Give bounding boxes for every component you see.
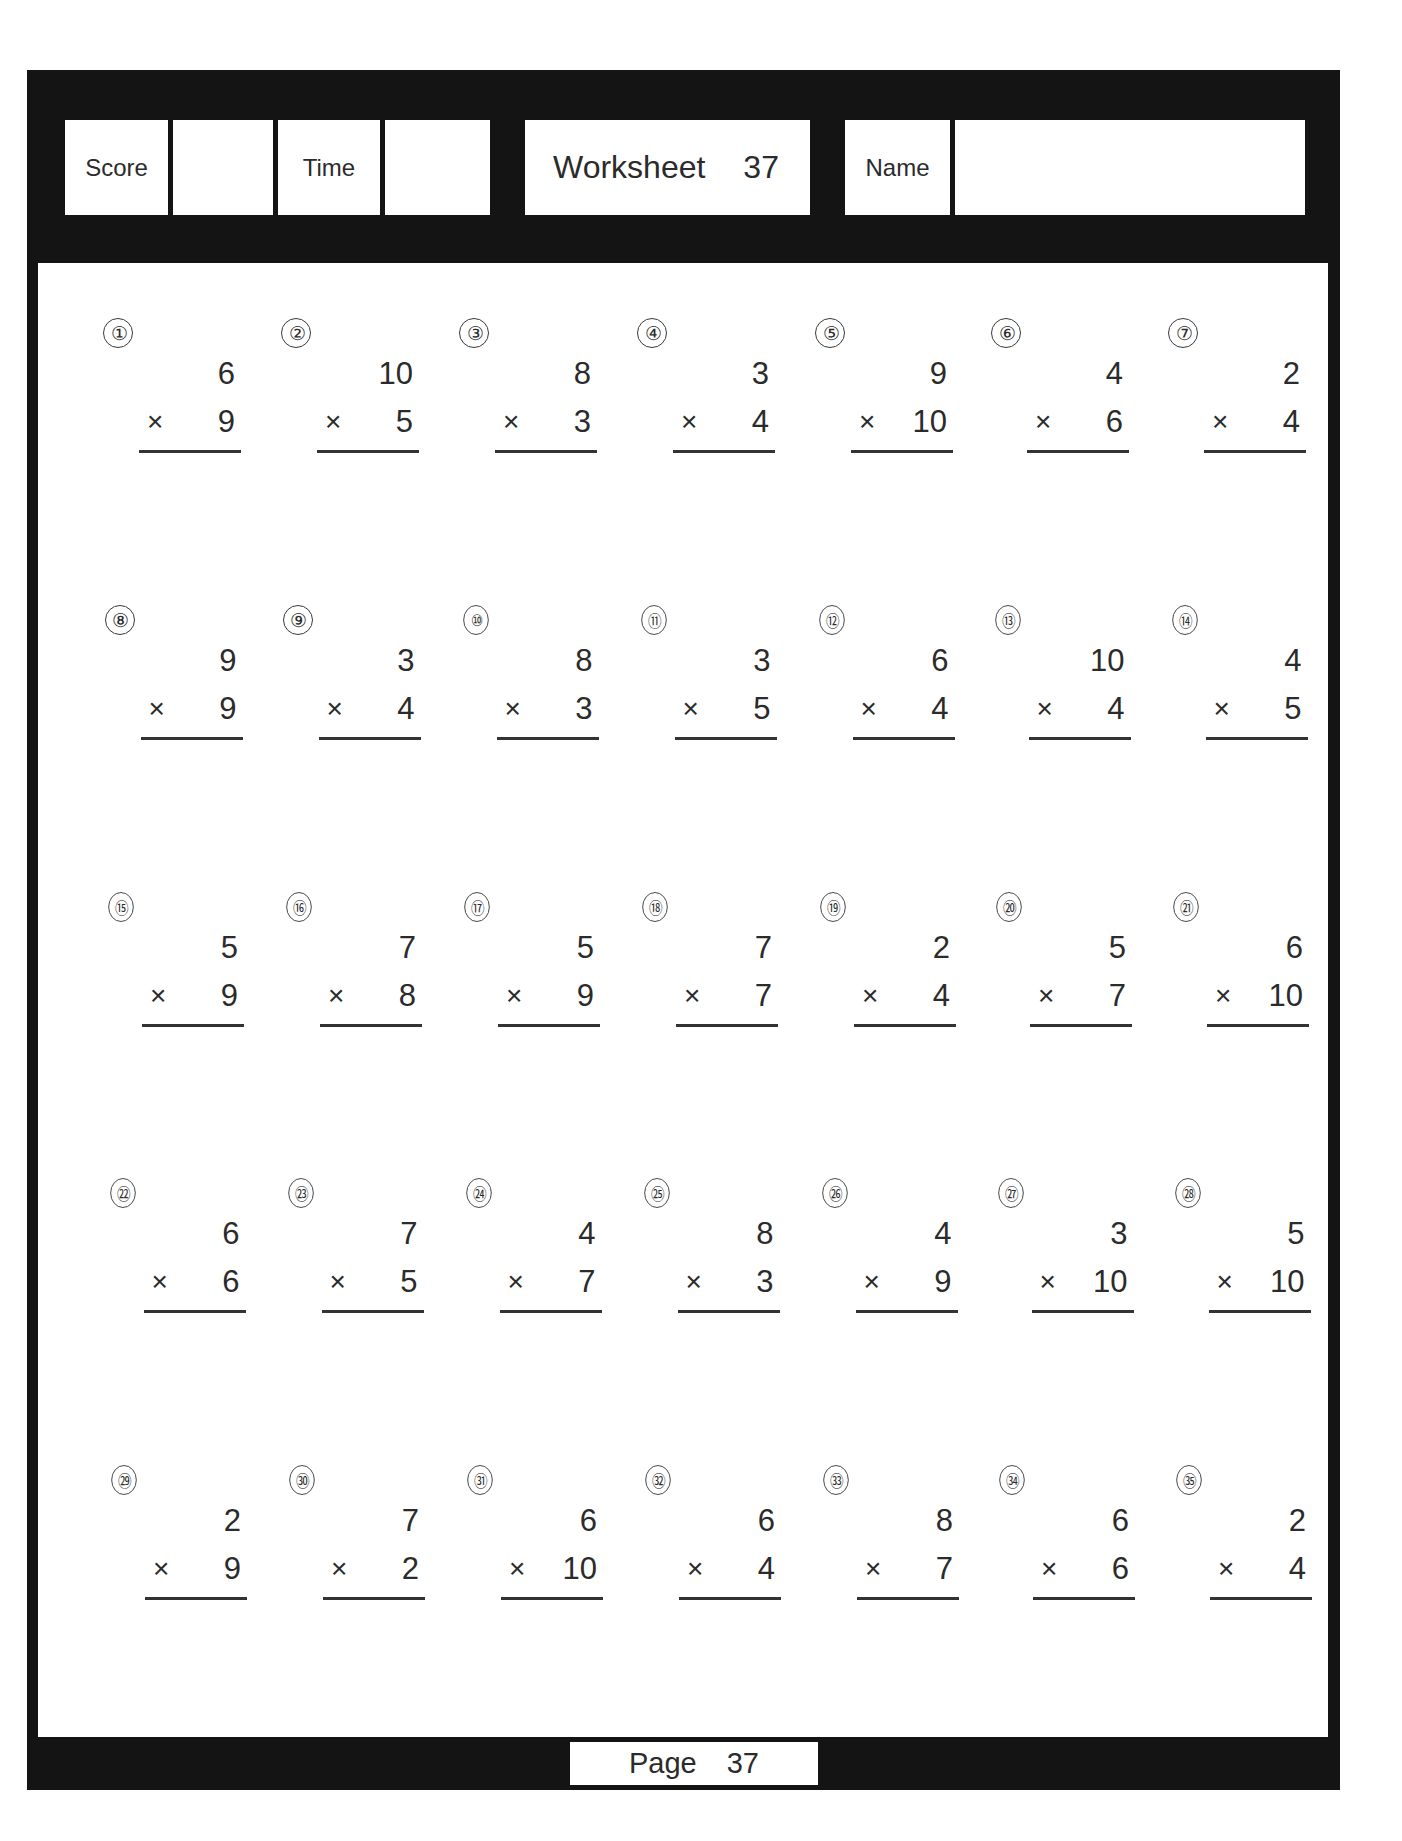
- score-field[interactable]: [173, 120, 273, 215]
- multiplier: 4: [931, 691, 948, 727]
- problem-item: ㉓7×5: [286, 1178, 446, 1328]
- problem-number-badge: ⑮: [108, 892, 134, 922]
- problem-number-badge: ⑰: [464, 892, 490, 922]
- multiplier: 4: [758, 1551, 775, 1587]
- problem-item: ①6×9: [103, 318, 263, 468]
- answer-line[interactable]: [856, 1310, 958, 1313]
- multiplicand: 2: [933, 930, 950, 966]
- answer-line[interactable]: [498, 1024, 600, 1027]
- multiplicand: 5: [221, 930, 238, 966]
- multiplicand: 3: [752, 356, 769, 392]
- problem-item: ⑫6×4: [817, 605, 977, 755]
- problem-number-badge: ②: [281, 318, 311, 348]
- multiplicand: 4: [1284, 643, 1301, 679]
- answer-line[interactable]: [857, 1597, 959, 1600]
- answer-line[interactable]: [673, 450, 775, 453]
- problem-number-badge: ⑫: [819, 605, 845, 635]
- answer-line[interactable]: [675, 737, 777, 740]
- problem-number-badge: ㉝: [823, 1465, 849, 1495]
- answer-line[interactable]: [323, 1597, 425, 1600]
- multiply-sign: ×: [505, 693, 521, 725]
- answer-line[interactable]: [1030, 1024, 1132, 1027]
- multiplicand: 7: [400, 1216, 417, 1252]
- answer-line[interactable]: [495, 450, 597, 453]
- answer-line[interactable]: [322, 1310, 424, 1313]
- answer-line[interactable]: [139, 450, 241, 453]
- multiplicand: 6: [1286, 930, 1303, 966]
- answer-line[interactable]: [1210, 1597, 1312, 1600]
- multiplicand: 10: [379, 356, 413, 392]
- multiply-sign: ×: [503, 406, 519, 438]
- problem-item: ⑭4×5: [1170, 605, 1330, 755]
- problem-number-badge: ⑯: [286, 892, 312, 922]
- worksheet-number: 37: [743, 149, 779, 186]
- answer-line[interactable]: [1032, 1310, 1134, 1313]
- multiplier: 6: [1112, 1551, 1129, 1587]
- multiply-sign: ×: [684, 980, 700, 1012]
- answer-line[interactable]: [678, 1310, 780, 1313]
- answer-line[interactable]: [1207, 1024, 1309, 1027]
- problem-number-badge: ⑤: [815, 318, 845, 348]
- problem-item: ⑥4×6: [991, 318, 1151, 468]
- answer-line[interactable]: [679, 1597, 781, 1600]
- multiplier: 7: [578, 1264, 595, 1300]
- multiplier: 3: [574, 404, 591, 440]
- answer-line[interactable]: [1033, 1597, 1135, 1600]
- multiplier: 3: [575, 691, 592, 727]
- problem-item: ⑩8×3: [461, 605, 621, 755]
- problem-number-badge: ⑬: [995, 605, 1021, 635]
- answer-line[interactable]: [1209, 1310, 1311, 1313]
- answer-line[interactable]: [497, 737, 599, 740]
- answer-line[interactable]: [1204, 450, 1306, 453]
- answer-line[interactable]: [501, 1597, 603, 1600]
- problem-number-badge: ⑥: [991, 318, 1021, 348]
- problem-number-badge: ㉙: [111, 1465, 137, 1495]
- problem-item: ㉛6×10: [465, 1465, 625, 1615]
- answer-line[interactable]: [1029, 737, 1131, 740]
- answer-line[interactable]: [320, 1024, 422, 1027]
- answer-line[interactable]: [1027, 450, 1129, 453]
- multiply-sign: ×: [331, 1553, 347, 1585]
- name-field[interactable]: [955, 120, 1305, 215]
- answer-line[interactable]: [1206, 737, 1308, 740]
- problem-number-badge: ㉑: [1173, 892, 1199, 922]
- multiply-sign: ×: [1217, 1266, 1233, 1298]
- time-field[interactable]: [385, 120, 490, 215]
- multiplier: 10: [1093, 1264, 1127, 1300]
- multiplier: 4: [397, 691, 414, 727]
- problem-number-badge: ㉗: [998, 1178, 1024, 1208]
- multiplicand: 4: [578, 1216, 595, 1252]
- answer-line[interactable]: [319, 737, 421, 740]
- answer-line[interactable]: [144, 1310, 246, 1313]
- answer-line[interactable]: [853, 737, 955, 740]
- problem-item: ⑧9×9: [105, 605, 265, 755]
- problem-number-badge: ㉕: [644, 1178, 670, 1208]
- answer-line[interactable]: [141, 737, 243, 740]
- page-number: 37: [727, 1747, 759, 1780]
- multiplier: 9: [224, 1551, 241, 1587]
- problem-item: ㉖4×9: [820, 1178, 980, 1328]
- answer-line[interactable]: [851, 450, 953, 453]
- answer-line[interactable]: [854, 1024, 956, 1027]
- answer-line[interactable]: [145, 1597, 247, 1600]
- problem-item: ㉑6×10: [1171, 892, 1331, 1042]
- answer-line[interactable]: [317, 450, 419, 453]
- multiply-sign: ×: [150, 980, 166, 1012]
- answer-line[interactable]: [500, 1310, 602, 1313]
- multiplicand: 5: [577, 930, 594, 966]
- problem-number-badge: ㉒: [110, 1178, 136, 1208]
- answer-line[interactable]: [676, 1024, 778, 1027]
- problem-item: ㉚7×2: [287, 1465, 447, 1615]
- multiply-sign: ×: [1214, 693, 1230, 725]
- problem-item: ④3×4: [637, 318, 797, 468]
- multiply-sign: ×: [1037, 693, 1053, 725]
- problem-number-badge: ⑪: [641, 605, 667, 635]
- problem-number-badge: ㉘: [1175, 1178, 1201, 1208]
- problem-item: ㉞6×6: [997, 1465, 1157, 1615]
- problem-number-badge: ⑳: [996, 892, 1022, 922]
- multiplicand: 8: [575, 643, 592, 679]
- multiplier: 4: [933, 978, 950, 1014]
- multiplier: 10: [1270, 1264, 1304, 1300]
- answer-line[interactable]: [142, 1024, 244, 1027]
- multiply-sign: ×: [859, 406, 875, 438]
